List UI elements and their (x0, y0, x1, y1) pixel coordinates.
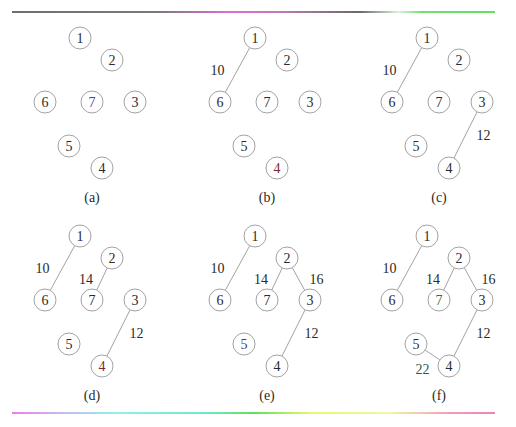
edge-line (464, 268, 476, 291)
edge-weight-label: 12 (477, 326, 491, 341)
edge-weight-label: 22 (416, 362, 430, 377)
edge-1-6: 10 (36, 246, 75, 291)
edge-line (454, 310, 477, 356)
edge-weight-label: 12 (130, 326, 144, 341)
edge-weight-label: 16 (310, 272, 324, 287)
node-label: 6 (217, 95, 224, 110)
node-label: 5 (66, 337, 73, 352)
node-label: 6 (389, 95, 396, 110)
node-label: 4 (446, 161, 453, 176)
node-label: 7 (264, 293, 271, 308)
node-label: 4 (274, 359, 281, 374)
edge-line (272, 268, 283, 290)
node-label: 1 (252, 31, 259, 46)
edge-2-7: 14 (79, 268, 107, 290)
node-label: 5 (66, 139, 73, 154)
node-label: 6 (389, 293, 396, 308)
node-label: 3 (132, 293, 139, 308)
node-label: 4 (274, 161, 281, 176)
node-4: 4 (438, 355, 460, 377)
node-label: 4 (99, 359, 106, 374)
node-label: 6 (217, 293, 224, 308)
node-7: 7 (256, 289, 278, 311)
edge-line (225, 48, 249, 93)
node-3: 3 (124, 91, 146, 113)
node-label: 3 (307, 293, 314, 308)
node-label: 7 (436, 293, 443, 308)
node-label: 1 (77, 31, 84, 46)
node-label: 2 (284, 53, 291, 68)
node-2: 2 (276, 247, 298, 269)
node-2: 2 (101, 247, 123, 269)
node-5: 5 (58, 135, 80, 157)
node-7: 7 (428, 289, 450, 311)
node-label: 5 (241, 337, 248, 352)
edge-1-6: 10 (383, 48, 422, 93)
panel-f: 10141612221234567(f) (381, 225, 496, 404)
edge-2-7: 14 (426, 268, 454, 290)
node-5: 5 (233, 333, 255, 355)
edge-3-4: 12 (282, 310, 319, 356)
node-5: 5 (233, 135, 255, 157)
node-4: 4 (91, 157, 113, 179)
node-4: 4 (438, 157, 460, 179)
edge-weight-label: 12 (477, 128, 491, 143)
node-label: 6 (42, 293, 49, 308)
edge-1-6: 10 (383, 246, 422, 291)
panel-caption: (a) (84, 190, 100, 206)
edge-1-6: 10 (211, 246, 250, 291)
edge-line (425, 350, 440, 360)
panel-c: 10121234567(c) (381, 27, 493, 206)
edge-3-4: 12 (454, 112, 491, 158)
node-1: 1 (244, 27, 266, 49)
edge-weight-label: 10 (383, 261, 397, 276)
node-label: 4 (446, 359, 453, 374)
node-5: 5 (405, 333, 427, 355)
node-6: 6 (34, 289, 56, 311)
panel-e: 101416121234567(e) (209, 225, 324, 404)
node-3: 3 (299, 91, 321, 113)
node-1: 1 (416, 27, 438, 49)
edge-weight-label: 14 (79, 272, 93, 287)
node-2: 2 (448, 247, 470, 269)
node-label: 7 (89, 95, 96, 110)
node-6: 6 (209, 91, 231, 113)
node-label: 6 (42, 95, 49, 110)
edge-line (225, 246, 249, 291)
node-label: 2 (456, 251, 463, 266)
edge-line (444, 268, 455, 290)
node-7: 7 (256, 91, 278, 113)
node-4: 4 (266, 157, 288, 179)
panel-caption: (e) (259, 388, 275, 404)
node-label: 1 (424, 31, 431, 46)
edge-weight-label: 12 (305, 326, 319, 341)
edge-weight-label: 10 (36, 261, 50, 276)
panel-caption: (d) (84, 388, 101, 404)
node-label: 7 (436, 95, 443, 110)
edge-weight-label: 14 (254, 272, 268, 287)
edge-weight-label: 10 (211, 63, 225, 78)
node-label: 4 (99, 161, 106, 176)
bottom-decorative-rule (12, 412, 495, 414)
node-label: 2 (456, 53, 463, 68)
node-2: 2 (276, 49, 298, 71)
edge-line (397, 48, 421, 93)
node-2: 2 (101, 49, 123, 71)
node-4: 4 (91, 355, 113, 377)
node-3: 3 (299, 289, 321, 311)
panel-d: 1014121234567(d) (34, 225, 146, 404)
node-label: 1 (77, 229, 84, 244)
panel-caption: (f) (432, 388, 446, 404)
edge-line (397, 246, 421, 291)
node-5: 5 (58, 333, 80, 355)
node-7: 7 (428, 91, 450, 113)
node-1: 1 (244, 225, 266, 247)
edge-line (454, 112, 477, 158)
node-6: 6 (34, 91, 56, 113)
node-1: 1 (69, 27, 91, 49)
node-3: 3 (471, 91, 493, 113)
edge-weight-label: 10 (383, 63, 397, 78)
node-2: 2 (448, 49, 470, 71)
edge-line (292, 268, 304, 291)
node-7: 7 (81, 91, 103, 113)
